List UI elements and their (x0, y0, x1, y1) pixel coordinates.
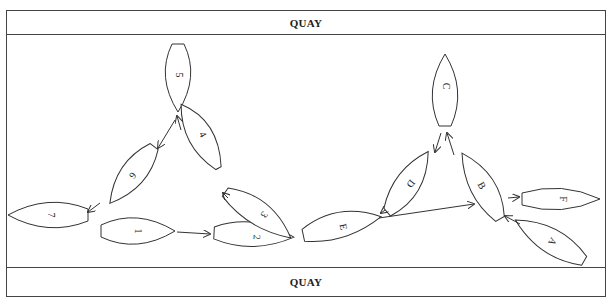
svg-text:7: 7 (46, 213, 57, 218)
boat-diagram: 5 4 6 7 1 2 3 C B (0, 0, 615, 305)
svg-text:1: 1 (133, 229, 144, 234)
boat-d: D (376, 146, 441, 220)
arrow-b-to-f (508, 197, 519, 198)
svg-text:C: C (441, 83, 452, 90)
boat-7: 7 (8, 202, 88, 227)
arrow-d-to-e (381, 210, 385, 213)
arrow-1-to-2 (177, 232, 210, 234)
svg-text:2: 2 (251, 234, 262, 240)
boat-e: E (300, 204, 384, 246)
boat-6: 6 (100, 139, 164, 211)
arrow-5-to-6 (158, 120, 175, 148)
boat-f: F (522, 188, 600, 210)
boat-c: C (432, 54, 457, 126)
arrow-b-to-c (447, 133, 454, 155)
arrow-6-to-7 (88, 203, 100, 212)
boat-4: 4 (172, 97, 229, 174)
arrow-c-to-d (435, 133, 441, 152)
boat-1: 1 (101, 218, 175, 244)
arrow-4-to-5 (177, 116, 181, 130)
svg-text:5: 5 (174, 73, 185, 78)
boat-a: A (509, 210, 591, 272)
boat-5: 5 (165, 44, 190, 112)
boat-b: B (452, 146, 511, 224)
svg-text:F: F (558, 196, 569, 202)
